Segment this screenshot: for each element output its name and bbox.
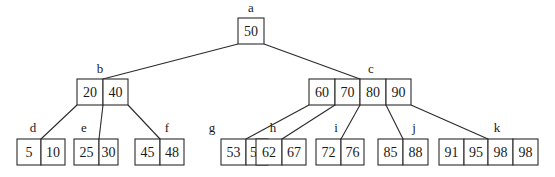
node-label: e xyxy=(81,120,87,135)
key-value: 85 xyxy=(384,145,398,160)
key-value: 88 xyxy=(409,145,423,160)
node-f: f4548 xyxy=(135,120,184,165)
key-value: 53 xyxy=(227,145,241,160)
node-a: a50 xyxy=(238,0,264,44)
node-b: b2040 xyxy=(77,61,128,105)
key-value: 70 xyxy=(341,85,355,100)
node-label: h xyxy=(270,120,277,135)
edge-a-b xyxy=(103,44,238,79)
edge-c-k xyxy=(411,105,488,139)
key-value: 20 xyxy=(83,85,97,100)
key-value: 90 xyxy=(392,85,406,100)
key-value: 72 xyxy=(322,145,336,160)
tree-nodes: a50b2040c60708090d510e2530f4548g5354h626… xyxy=(17,0,538,165)
key-value: 67 xyxy=(287,145,301,160)
node-i: i7276 xyxy=(316,120,364,165)
node-c: c60708090 xyxy=(309,61,411,105)
node-label: g xyxy=(209,120,216,135)
key-value: 40 xyxy=(109,85,123,100)
edge-a-c xyxy=(264,44,360,79)
node-d: d510 xyxy=(17,120,65,165)
node-label: i xyxy=(334,120,338,135)
key-value: 10 xyxy=(46,145,60,160)
key-value: 50 xyxy=(244,24,258,39)
node-label: c xyxy=(368,61,374,76)
key-value: 60 xyxy=(315,85,329,100)
key-value: 80 xyxy=(366,85,380,100)
key-value: 98 xyxy=(494,145,508,160)
node-e: e2530 xyxy=(74,120,118,165)
edge-c-j xyxy=(386,105,403,139)
edge-b-e xyxy=(99,105,103,139)
key-value: 98 xyxy=(519,145,533,160)
key-value: 30 xyxy=(102,145,116,160)
b-tree-diagram: a50b2040c60708090d510e2530f4548g5354h626… xyxy=(0,0,555,177)
edge-b-d xyxy=(41,105,77,139)
key-value: 95 xyxy=(469,145,483,160)
edge-c-g xyxy=(246,105,309,139)
node-j: j8588 xyxy=(378,120,428,165)
edge-c-i xyxy=(341,105,360,139)
node-label: a xyxy=(248,0,254,15)
edge-b-f xyxy=(128,105,160,139)
node-label: b xyxy=(97,61,104,76)
key-value: 48 xyxy=(165,145,179,160)
node-k: k91959898 xyxy=(439,120,538,165)
key-value: 76 xyxy=(346,145,360,160)
key-value: 25 xyxy=(80,145,94,160)
node-label: f xyxy=(165,120,170,135)
key-value: 5 xyxy=(26,145,33,160)
edge-c-h xyxy=(282,105,335,139)
node-h: h6267 xyxy=(256,120,306,165)
key-value: 91 xyxy=(445,145,459,160)
node-label: j xyxy=(411,120,416,135)
node-label: d xyxy=(30,120,37,135)
key-value: 62 xyxy=(262,145,276,160)
key-value: 45 xyxy=(141,145,155,160)
node-label: k xyxy=(494,120,501,135)
